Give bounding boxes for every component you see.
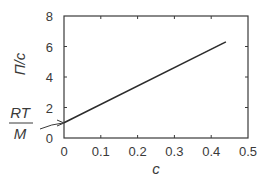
y-axis-label: Π/c [11,52,28,75]
x-axis-label: c [152,160,160,177]
y-tick-label: 8 [46,9,53,24]
y-tick-label: 6 [46,40,53,55]
y-tick-label: 0 [46,131,53,146]
x-tick-label: 0 [60,144,67,159]
y-tick-label: 2 [46,101,53,116]
x-tick-label: 0.1 [92,144,110,159]
x-tick-label: 0.4 [202,144,220,159]
data-line [64,42,226,123]
chart: 8 6 4 2 0 0 0.1 0.2 0.3 0.4 0.5 c Π/c RT… [0,0,267,182]
annotation-denominator: M [14,125,27,142]
annotation-arrow [40,123,63,129]
annotation-numerator: RT [10,104,32,121]
x-tick-label: 0.5 [239,144,257,159]
x-tick-label: 0.2 [129,144,147,159]
x-tick-label: 0.3 [165,144,183,159]
y-tick-label: 4 [46,70,53,85]
